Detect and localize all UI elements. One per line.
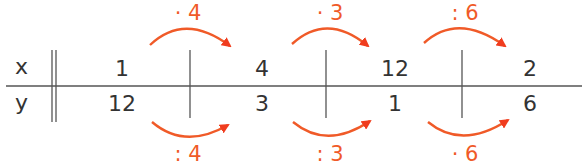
x-value-2: 4 <box>255 58 269 80</box>
arrow-top-2 <box>292 28 368 46</box>
top-op-label-1: · 4 <box>175 3 202 24</box>
x-value-1: 1 <box>115 58 129 80</box>
bottom-op-label-1: : 4 <box>174 144 201 165</box>
y-value-1: 12 <box>108 93 136 115</box>
x-value-4: 2 <box>523 58 537 80</box>
arrow-top-3 <box>424 28 505 46</box>
arrow-top-1 <box>150 29 230 46</box>
row-label-x: x <box>15 56 28 78</box>
bottom-op-label-2: : 3 <box>316 144 343 165</box>
bottom-op-label-3: · 6 <box>452 144 479 165</box>
y-value-4: 6 <box>523 93 537 115</box>
y-value-3: 1 <box>388 93 402 115</box>
top-op-label-3: : 6 <box>451 3 478 24</box>
x-value-3: 12 <box>381 58 409 80</box>
arrow-bottom-3 <box>428 120 508 136</box>
arrow-bottom-1 <box>152 122 228 137</box>
table-lines-and-arrows <box>0 0 582 165</box>
y-value-2: 3 <box>255 93 269 115</box>
row-label-y: y <box>15 92 28 114</box>
top-op-label-2: · 3 <box>317 3 344 24</box>
arrow-bottom-2 <box>293 121 370 136</box>
